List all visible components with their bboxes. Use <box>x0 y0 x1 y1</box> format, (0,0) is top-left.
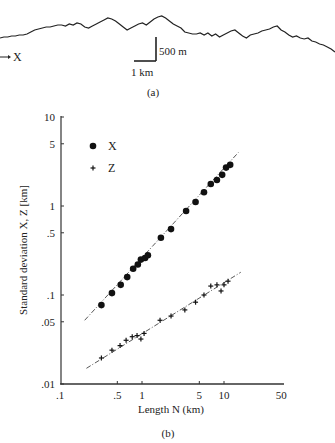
data-point-x <box>145 252 152 259</box>
x-tick-label: 1 <box>139 389 145 401</box>
x-tick-label: 10 <box>219 389 231 401</box>
y-tick-label: 1 <box>50 200 56 212</box>
fit-line-z <box>86 272 240 368</box>
data-point-x <box>207 181 214 188</box>
y-tick-label: .01 <box>41 378 55 390</box>
fit-lines <box>85 152 241 368</box>
x-tick-label: 50 <box>276 389 288 401</box>
data-point-z <box>138 337 143 342</box>
x-tick-label: .1 <box>56 389 64 401</box>
data-point-x <box>192 199 199 206</box>
legend-plus-icon <box>91 166 96 171</box>
x-tick-label: 5 <box>197 389 203 401</box>
data-point-z <box>193 300 198 305</box>
data-point-x <box>158 234 165 241</box>
data-point-x <box>201 189 208 196</box>
y-tick-label: 5 <box>50 138 56 150</box>
legend: X Z <box>90 139 117 175</box>
data-point-z <box>109 348 114 353</box>
data-point-z <box>214 282 219 287</box>
data-point-z <box>219 288 224 293</box>
data-point-z <box>130 334 135 339</box>
panel-a-caption: (a) <box>147 86 160 99</box>
panel-a: X 500 m 1 km (a) <box>0 16 335 99</box>
x-tick-label: .5 <box>113 389 122 401</box>
data-point-z <box>226 279 231 284</box>
y-tick-label: .1 <box>47 289 55 301</box>
data-point-x <box>168 226 175 233</box>
data-point-z <box>135 333 140 338</box>
data-point-z <box>201 293 206 298</box>
horizontal-scale-label: 1 km <box>131 66 154 78</box>
data-point-x <box>98 302 105 309</box>
data-points <box>98 162 233 361</box>
data-point-x <box>219 172 226 179</box>
data-point-z <box>124 338 129 343</box>
y-tick-label: 10 <box>44 111 56 123</box>
y-tick-label: .05 <box>41 316 55 328</box>
y-axis-label: Standard deviation X, Z [km] <box>17 185 29 315</box>
data-point-z <box>158 318 163 323</box>
x-axis-label: Length N (km) <box>138 403 204 416</box>
legend-label-z: Z <box>108 161 115 175</box>
figure: X 500 m 1 km (a) .01.05.1.51510 .1.51510… <box>0 0 335 443</box>
data-point-z <box>118 343 123 348</box>
data-point-x <box>109 290 116 297</box>
direction-arrow-icon <box>0 55 11 59</box>
data-point-z <box>142 331 147 336</box>
data-point-z <box>208 284 213 289</box>
panel-b: .01.05.1.51510 .1.5151050 X Z Standard d… <box>17 111 287 440</box>
legend-label-x: X <box>108 139 117 153</box>
panel-b-caption: (b) <box>162 427 175 440</box>
legend-circle-icon <box>90 143 97 150</box>
data-point-z <box>99 355 104 360</box>
data-point-x <box>124 274 131 281</box>
y-tick-label: .5 <box>47 227 56 239</box>
data-point-x <box>214 177 221 184</box>
data-point-x <box>183 208 190 215</box>
data-point-x <box>227 162 234 169</box>
vertical-scale-label: 500 m <box>159 45 187 57</box>
direction-label: X <box>13 50 22 64</box>
data-point-z <box>222 282 227 287</box>
data-point-x <box>117 282 124 289</box>
